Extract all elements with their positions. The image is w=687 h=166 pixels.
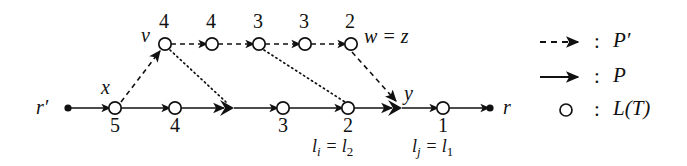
node-lower-3: [277, 102, 289, 114]
node-upper-4: [206, 38, 218, 50]
dotted-edges: [170, 50, 345, 102]
legend-label-lt: L(T): [613, 98, 650, 119]
dotted-edge-u2-to-n2: [264, 50, 345, 102]
lower-node-value-5: 1: [438, 115, 448, 135]
legend-label-p: P: [613, 65, 626, 86]
upper-node-value-3: 3: [253, 11, 263, 31]
node-w-equals-z: [345, 38, 357, 50]
label-r: r: [503, 97, 511, 117]
node-lower-2: [342, 102, 354, 114]
upper-node-value-1: 4: [159, 11, 169, 31]
annotation-lj: lj = l1: [412, 137, 453, 159]
annotation-li: li = l2: [312, 137, 353, 159]
dotted-edge-v-to-join1: [170, 50, 226, 102]
legend-separator-1: :: [594, 31, 600, 52]
upper-node-value-2: 4: [206, 11, 216, 31]
dashed-edge-w-to-y: [352, 52, 396, 101]
node-r-endpoint: [486, 104, 493, 111]
lower-node-value-2: 4: [170, 115, 180, 135]
label-r-prime: r′: [36, 97, 48, 117]
upper-node-value-5: 2: [345, 11, 355, 31]
graph-figure: 4 4 3 3 2 5 4 3 2 1 r′ x v w = z y r li …: [0, 0, 687, 166]
legend-separator-3: :: [594, 99, 600, 120]
circle-icon: [560, 104, 572, 116]
upper-node-value-4: 3: [299, 11, 309, 31]
node-upper-3a: [253, 38, 265, 50]
node-x: [109, 102, 121, 114]
label-y: y: [404, 83, 413, 103]
dashed-edge-x-to-v: [121, 51, 160, 102]
node-lower-4: [169, 102, 181, 114]
legend-separator-2: :: [594, 66, 600, 87]
legend-glyphs: [540, 42, 578, 116]
node-upper-3b: [299, 38, 311, 50]
lower-node-value-1: 5: [110, 115, 120, 135]
node-lower-1: [437, 102, 449, 114]
label-x: x: [101, 77, 110, 97]
label-v: v: [141, 25, 150, 45]
legend-label-p-prime: P′: [613, 30, 630, 51]
label-w-equals-z: w = z: [364, 26, 409, 46]
node-r-prime-endpoint: [64, 104, 71, 111]
node-v: [159, 38, 171, 50]
lower-node-value-3: 3: [278, 115, 288, 135]
upper-path-nodes: [159, 38, 357, 50]
lower-node-value-4: 2: [343, 115, 353, 135]
cross-dashed-edges: [121, 51, 396, 102]
